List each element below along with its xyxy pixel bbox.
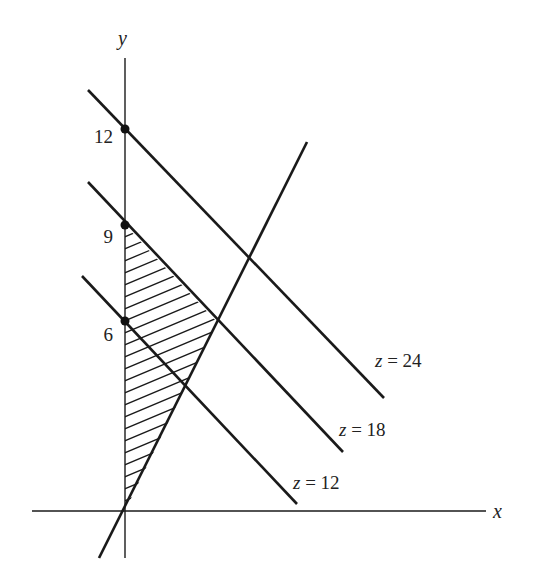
diagram-canvas: y x 12 9 6 zz = 24 = 24 z = 18 z = 12	[0, 0, 533, 587]
objective-line-z24	[88, 90, 384, 398]
objective-label-z24: zz = 24 = 24	[374, 350, 422, 371]
objective-line-z12	[82, 276, 297, 504]
intercept-point-6	[121, 317, 130, 326]
intercept-point-9	[121, 221, 130, 230]
objective-label-z18: z = 18	[338, 419, 386, 440]
objective-label-z12: z = 12	[292, 472, 340, 493]
y-tick-9: 9	[104, 226, 114, 247]
y-tick-12: 12	[94, 126, 113, 147]
lp-diagram: y x 12 9 6 zz = 24 = 24 z = 18 z = 12	[0, 0, 533, 587]
y-axis-label: y	[116, 27, 127, 50]
x-axis-label: x	[492, 500, 502, 522]
intercept-point-12	[121, 125, 130, 134]
y-tick-6: 6	[104, 324, 114, 345]
constraint-line	[99, 142, 307, 558]
